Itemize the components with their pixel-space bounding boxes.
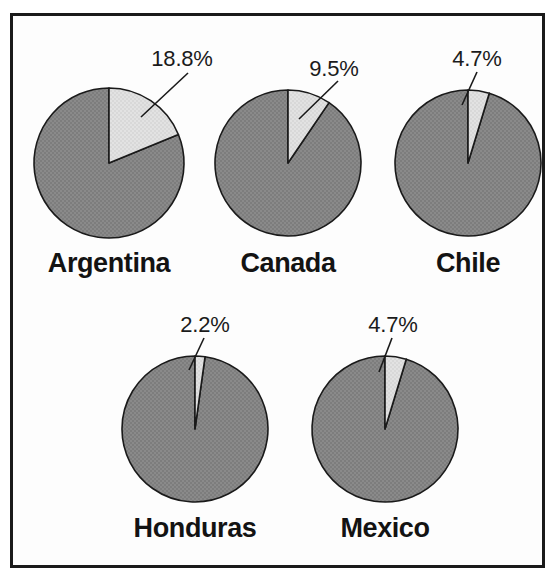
pie-category-label-canada: Canada: [240, 248, 335, 279]
pie-category-label-chile: Chile: [436, 248, 500, 279]
pie-value-label-argentina: 18.8%: [151, 46, 212, 72]
pie-category-label-argentina: Argentina: [48, 248, 170, 279]
pie-value-label-canada: 9.5%: [309, 56, 358, 82]
figure-frame: [10, 13, 545, 568]
pie-value-label-mexico: 4.7%: [368, 312, 417, 338]
pie-category-label-honduras: Honduras: [134, 513, 257, 544]
pie-value-label-chile: 4.7%: [452, 46, 501, 72]
pie-chart-figure: 18.8%Argentina9.5%Canada4.7%Chile2.2%Hon…: [0, 0, 558, 577]
pie-category-label-mexico: Mexico: [340, 513, 429, 544]
pie-value-label-honduras: 2.2%: [180, 312, 229, 338]
